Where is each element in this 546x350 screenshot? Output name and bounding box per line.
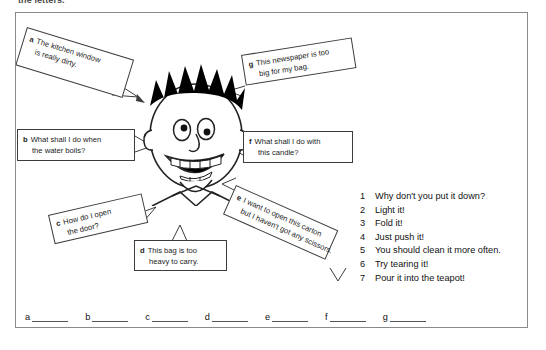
- answer-number: 6: [360, 258, 375, 272]
- speech-bubble-b: bWhat shall I do when the water boils?: [17, 129, 135, 161]
- answer-item: 5 You should clean it more often.: [360, 244, 535, 258]
- bubble-tag-a: a: [28, 34, 35, 44]
- bubble-tag-b: b: [23, 135, 28, 144]
- blank-line[interactable]: [152, 312, 188, 322]
- bubble-f-line1: What shall I do with: [255, 137, 321, 146]
- answer-number: 3: [360, 217, 375, 231]
- answer-item: 4 Just push it!: [360, 231, 535, 245]
- blank-line[interactable]: [390, 312, 426, 322]
- answer-text: Light it!: [375, 204, 405, 218]
- bubble-b-line1: What shall I do when: [31, 135, 102, 144]
- bubble-d-line1: This bag is too: [148, 246, 197, 255]
- blank-letter: b: [85, 312, 90, 322]
- bubble-d-line2: heavy to carry.: [140, 256, 220, 267]
- answer-number: 1: [360, 190, 375, 204]
- answers-list: 1 Why don't you put it down? 2 Light it!…: [360, 190, 535, 285]
- blank-letter: d: [205, 312, 210, 322]
- answer-item: 2 Light it!: [360, 204, 535, 218]
- blank-letter: g: [383, 312, 388, 322]
- answer-number: 2: [360, 204, 375, 218]
- answer-blank-f[interactable]: f: [325, 312, 366, 322]
- bubble-b-line2: the water boils?: [23, 145, 128, 156]
- bubble-tag-c: c: [55, 219, 61, 229]
- blank-line[interactable]: [272, 312, 308, 322]
- speech-bubble-d: dThis bag is too heavy to carry.: [134, 240, 227, 271]
- bubble-f-line2: this candle?: [249, 147, 346, 158]
- answer-item: 7 Pour it into the teapot!: [360, 272, 535, 286]
- bubble-tag-f: f: [249, 137, 252, 146]
- blank-line[interactable]: [330, 312, 366, 322]
- blank-line[interactable]: [212, 312, 248, 322]
- answer-blank-c[interactable]: c: [145, 312, 188, 322]
- answer-text: Pour it into the teapot!: [375, 272, 465, 286]
- answer-blank-b[interactable]: b: [85, 312, 128, 322]
- blank-letter: f: [325, 312, 328, 322]
- answer-blank-e[interactable]: e: [265, 312, 308, 322]
- answer-number: 7: [360, 272, 375, 286]
- blank-line[interactable]: [92, 312, 128, 322]
- speech-bubble-f: fWhat shall I do with this candle?: [243, 131, 353, 163]
- blank-letter: c: [145, 312, 150, 322]
- bubble-tag-d: d: [140, 246, 145, 255]
- answer-text: Just push it!: [375, 231, 424, 245]
- answer-blank-g[interactable]: g: [383, 312, 426, 322]
- blank-letter: e: [265, 312, 270, 322]
- answer-item: 3 Fold it!: [360, 217, 535, 231]
- answer-text: Fold it!: [375, 217, 403, 231]
- answer-item: 1 Why don't you put it down?: [360, 190, 535, 204]
- blank-letter: a: [25, 312, 30, 322]
- answer-item: 6 Try tearing it!: [360, 258, 535, 272]
- answer-number: 5: [360, 244, 375, 258]
- blank-line[interactable]: [32, 312, 68, 322]
- worksheet-page: the letters.: [0, 0, 546, 350]
- answer-number: 4: [360, 231, 375, 245]
- answer-text: Why don't you put it down?: [375, 190, 485, 204]
- answer-blank-a[interactable]: a: [25, 312, 68, 322]
- answer-blanks-row: a b c d e f g: [25, 312, 443, 322]
- answer-blank-d[interactable]: d: [205, 312, 248, 322]
- bubble-tag-g: g: [248, 59, 254, 69]
- answer-text: You should clean it more often.: [375, 244, 501, 258]
- answer-text: Try tearing it!: [375, 258, 428, 272]
